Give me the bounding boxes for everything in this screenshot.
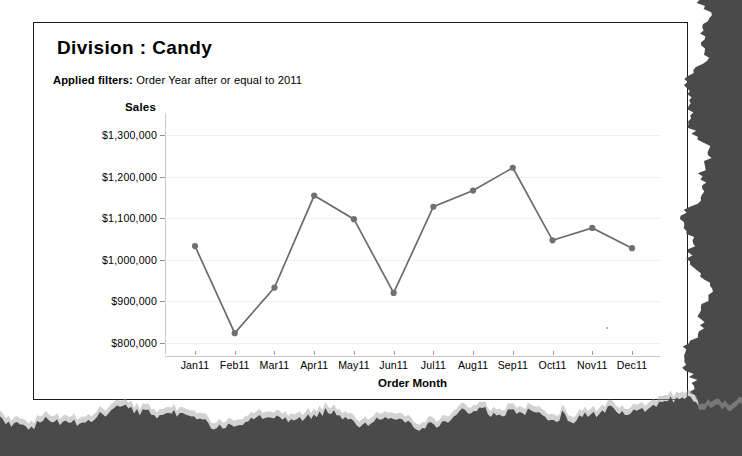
applied-filters: Applied filters: Order Year after or equ…	[53, 74, 302, 86]
x-tick-mark	[394, 351, 395, 355]
plot-area: $1,300,000$1,200,000$1,100,000$1,000,000…	[165, 123, 660, 351]
x-tick-mark	[433, 351, 434, 355]
scan-speck	[606, 327, 608, 329]
data-point-marker	[510, 165, 516, 171]
y-tick-label: $1,100,000	[102, 212, 157, 224]
series-line	[195, 168, 632, 333]
x-axis-title: Order Month	[378, 377, 447, 389]
sales-series	[165, 123, 660, 351]
x-tick-label: Nov11	[577, 359, 607, 371]
x-tick-mark	[195, 351, 196, 355]
x-tick-label: Apr11	[300, 359, 328, 371]
torn-edge-shadow	[687, 0, 742, 456]
data-point-marker	[549, 237, 555, 243]
torn-edge-shape	[680, 0, 742, 456]
torn-edge-shape	[0, 396, 742, 456]
data-point-marker	[271, 284, 277, 290]
x-tick-mark	[513, 351, 514, 355]
x-tick-label: Jan11	[181, 359, 210, 371]
x-tick-mark	[354, 351, 355, 355]
x-tick-mark	[592, 351, 593, 355]
x-tick-mark	[274, 351, 275, 355]
data-point-marker	[430, 204, 436, 210]
x-axis-line	[165, 356, 660, 357]
data-point-marker	[351, 216, 357, 222]
data-point-marker	[470, 187, 476, 193]
x-tick-mark	[314, 351, 315, 355]
y-tick-label: $900,000	[111, 295, 157, 307]
x-tick-label: Feb11	[220, 359, 250, 371]
x-tick-label: Jun11	[379, 359, 408, 371]
x-tick-mark	[473, 351, 474, 355]
data-point-marker	[391, 290, 397, 296]
data-point-marker	[629, 245, 635, 251]
x-tick-mark	[553, 351, 554, 355]
x-tick-label: Sep11	[498, 359, 528, 371]
x-tick-label: Aug11	[458, 359, 488, 371]
x-tick-label: Jul11	[421, 359, 446, 371]
page-title: Division : Candy	[57, 37, 212, 59]
x-tick-mark	[632, 351, 633, 355]
sales-line-chart: Sales $1,300,000$1,200,000$1,100,000$1,0…	[53, 101, 673, 391]
y-tick-label: $800,000	[111, 337, 157, 349]
data-point-marker	[232, 330, 238, 336]
data-point-marker	[311, 192, 317, 198]
applied-filters-label: Applied filters:	[53, 74, 133, 86]
x-tick-mark	[235, 351, 236, 355]
y-tick-label: $1,300,000	[102, 129, 157, 141]
data-point-marker	[589, 225, 595, 231]
data-point-marker	[192, 243, 198, 249]
y-tick-label: $1,000,000	[102, 254, 157, 266]
x-tick-label: May11	[338, 359, 370, 371]
x-tick-label: Mar11	[260, 359, 290, 371]
y-axis-title: Sales	[125, 101, 156, 113]
report-page: Division : Candy Applied filters: Order …	[33, 22, 688, 400]
x-tick-label: Oct11	[539, 359, 567, 371]
y-tick-label: $1,200,000	[102, 171, 157, 183]
applied-filters-value: Order Year after or equal to 2011	[133, 74, 302, 86]
x-tick-label: Dec11	[617, 359, 647, 371]
